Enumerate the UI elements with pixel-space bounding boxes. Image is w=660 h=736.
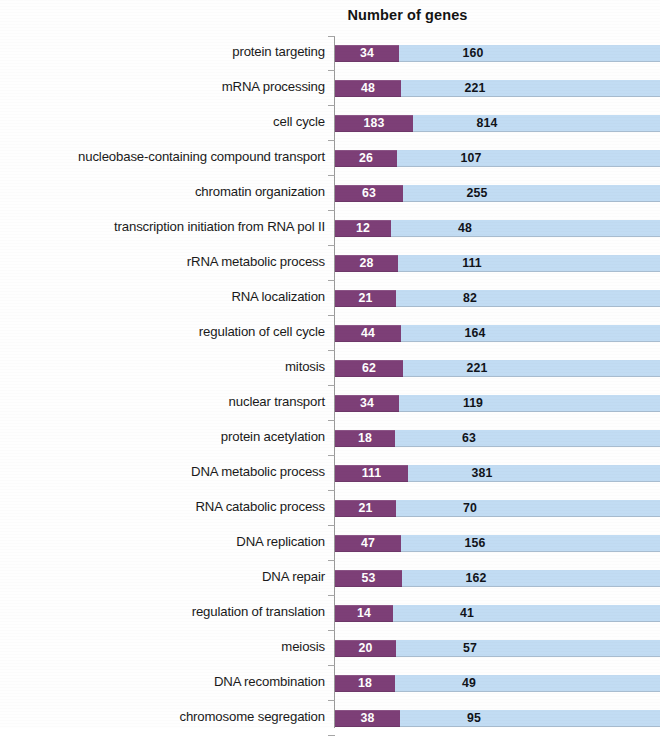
bar-segment-series-2: 162 [402, 570, 660, 587]
bar-segment-series-1: 44 [335, 325, 401, 342]
bar-value-series-1: 21 [335, 290, 396, 307]
bar-value-series-1: 183 [335, 115, 413, 132]
bar-value-series-1: 18 [335, 675, 395, 692]
bar-row: mRNA processing48221 [0, 71, 660, 106]
bar-segment-series-1: 47 [335, 535, 401, 552]
stacked-bar: 1248 [335, 220, 660, 237]
bar-segment-series-2: 255 [403, 185, 660, 202]
bar-value-series-1: 44 [335, 325, 401, 342]
category-label: cell cycle [273, 114, 325, 129]
stacked-bar: 3895 [335, 710, 660, 727]
bar-value-series-2: 111 [398, 255, 546, 272]
bar-segment-series-1: 48 [335, 80, 401, 97]
bar-row: chromatin organization63255 [0, 176, 660, 211]
bar-value-series-1: 18 [335, 430, 395, 447]
bar-segment-series-1: 183 [335, 115, 413, 132]
bar-segment-series-2: 49 [395, 675, 660, 692]
bar-segment-series-1: 21 [335, 500, 396, 517]
category-label: protein acetylation [221, 429, 325, 444]
bar-value-series-1: 48 [335, 80, 401, 97]
plot-area: protein targeting34160mRNA processing482… [0, 36, 660, 728]
bar-row: protein acetylation1863 [0, 421, 660, 456]
bar-segment-series-1: 26 [335, 150, 397, 167]
bar-value-series-2: 48 [391, 220, 539, 237]
bar-segment-series-1: 12 [335, 220, 391, 237]
bar-value-series-1: 21 [335, 500, 396, 517]
category-label: RNA catabolic process [195, 499, 325, 514]
stacked-bar: 1849 [335, 675, 660, 692]
category-label: DNA repair [262, 569, 325, 584]
bar-segment-series-1: 18 [335, 675, 395, 692]
bar-value-series-1: 20 [335, 640, 396, 657]
bar-row: mitosis62221 [0, 351, 660, 386]
bar-value-series-1: 53 [335, 570, 402, 587]
bar-value-series-2: 70 [396, 500, 544, 517]
bar-segment-series-1: 62 [335, 360, 403, 377]
category-label: meiosis [281, 639, 325, 654]
bar-row: nucleobase-containing compound transport… [0, 141, 660, 176]
bar-segment-series-2: 63 [395, 430, 660, 447]
bar-row: rRNA metabolic process28111 [0, 246, 660, 281]
bar-segment-series-1: 38 [335, 710, 400, 727]
bar-value-series-2: 221 [401, 80, 549, 97]
category-label: DNA metabolic process [191, 464, 325, 479]
bar-value-series-2: 119 [399, 395, 547, 412]
bar-value-series-1: 38 [335, 710, 400, 727]
stacked-bar: 2170 [335, 500, 660, 517]
bar-value-series-1: 63 [335, 185, 403, 202]
stacked-bar: 28111 [335, 255, 660, 272]
stacked-bar: 63255 [335, 185, 660, 202]
bar-row: protein targeting34160 [0, 36, 660, 71]
bar-row: meiosis2057 [0, 631, 660, 666]
bar-value-series-2: 162 [402, 570, 550, 587]
bar-segment-series-1: 18 [335, 430, 395, 447]
bar-value-series-2: 814 [413, 115, 561, 132]
bar-segment-series-2: 221 [403, 360, 660, 377]
bar-segment-series-1: 53 [335, 570, 402, 587]
category-label: regulation of translation [192, 604, 325, 619]
stacked-bar: 34119 [335, 395, 660, 412]
category-label: DNA replication [236, 534, 325, 549]
bar-segment-series-2: 82 [396, 290, 660, 307]
bar-value-series-2: 41 [393, 605, 541, 622]
bar-value-series-2: 381 [408, 465, 556, 482]
bar-value-series-2: 63 [395, 430, 543, 447]
bar-row: regulation of cell cycle44164 [0, 316, 660, 351]
stacked-bar: 111381 [335, 465, 660, 482]
category-label: nucleobase-containing compound transport [78, 149, 325, 164]
bar-segment-series-1: 34 [335, 45, 399, 62]
stacked-bar: 183814 [335, 115, 660, 132]
bar-rows: protein targeting34160mRNA processing482… [0, 36, 660, 736]
stacked-bar: 34160 [335, 45, 660, 62]
bar-row: DNA repair53162 [0, 561, 660, 596]
bar-value-series-1: 12 [335, 220, 391, 237]
category-label: RNA localization [231, 289, 325, 304]
bar-value-series-1: 111 [335, 465, 408, 482]
bar-segment-series-2: 57 [396, 640, 660, 657]
bar-row: nuclear transport34119 [0, 386, 660, 421]
stacked-bar: 62221 [335, 360, 660, 377]
category-label: chromosome segregation [179, 709, 325, 724]
bar-row: chromosome segregation3895 [0, 701, 660, 736]
stacked-bar: 2057 [335, 640, 660, 657]
stacked-bar: 1863 [335, 430, 660, 447]
bar-value-series-2: 164 [401, 325, 549, 342]
bar-row: DNA metabolic process111381 [0, 456, 660, 491]
bar-segment-series-2: 164 [401, 325, 660, 342]
stacked-bar: 1441 [335, 605, 660, 622]
bar-segment-series-2: 111 [398, 255, 660, 272]
bar-value-series-1: 34 [335, 395, 399, 412]
bar-segment-series-1: 20 [335, 640, 396, 657]
bar-value-series-2: 57 [396, 640, 544, 657]
bar-segment-series-1: 21 [335, 290, 396, 307]
stacked-bar: 44164 [335, 325, 660, 342]
bar-row: cell cycle183814 [0, 106, 660, 141]
category-label: mRNA processing [222, 79, 325, 94]
bar-segment-series-2: 41 [393, 605, 660, 622]
bar-segment-series-2: 381 [408, 465, 660, 482]
bar-segment-series-1: 14 [335, 605, 393, 622]
bar-value-series-2: 82 [396, 290, 544, 307]
bar-value-series-2: 156 [401, 535, 549, 552]
bar-value-series-2: 255 [403, 185, 551, 202]
